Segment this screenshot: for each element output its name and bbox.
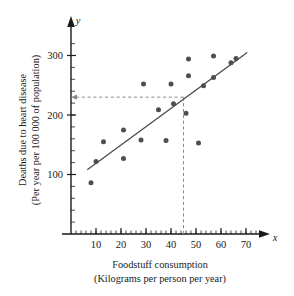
data-point [211, 75, 216, 80]
tick-labels-group: 10203040506070100200300 [47, 50, 251, 250]
line-of-best-fit [87, 53, 247, 170]
x-axis-tick-label: 70 [241, 239, 252, 250]
data-point [234, 56, 239, 61]
data-point [139, 137, 144, 142]
x-axis-arrowhead [259, 230, 270, 237]
y-axis-arrowhead [67, 16, 75, 27]
y-axis-variable-label: y [75, 15, 81, 26]
data-point [89, 180, 94, 185]
prediction-guide-group [71, 94, 184, 234]
chart-canvas: 10203040506070100200300 y x Foodstuff co… [0, 0, 294, 296]
y-axis-tick-label: 100 [47, 169, 63, 180]
x-axis-tick-label: 40 [166, 239, 177, 250]
data-point [201, 83, 206, 88]
scatter-plot-figure: 10203040506070100200300 y x Foodstuff co… [0, 0, 294, 296]
data-point [156, 107, 161, 112]
data-point [121, 127, 126, 132]
x-axis-variable-label: x [272, 232, 278, 243]
data-point [171, 101, 176, 106]
data-point [184, 111, 189, 116]
guide-arrowhead-icon [71, 94, 77, 99]
data-point [196, 140, 201, 145]
data-point [229, 60, 234, 65]
y-axis-subtitle: (Per year per 100 000 of population) [30, 55, 42, 205]
data-point [94, 159, 99, 164]
x-axis-tick-label: 60 [216, 239, 227, 250]
data-point [186, 73, 191, 78]
x-axis-tick-label: 50 [191, 239, 202, 250]
ticks-group [67, 44, 256, 234]
x-axis-tick-label: 20 [116, 239, 127, 250]
y-axis-title: Deaths due to heart disease [17, 74, 28, 187]
x-axis-title: Foodstuff consumption [112, 259, 208, 270]
x-axis-subtitle: (Kilograms per person per year) [94, 273, 226, 285]
data-point [141, 82, 146, 87]
data-point [211, 54, 216, 59]
data-point [164, 138, 169, 143]
axes-group [62, 16, 270, 238]
data-point [186, 57, 191, 62]
data-point [169, 82, 174, 87]
y-axis-tick-label: 200 [47, 110, 63, 121]
x-axis-tick-label: 10 [91, 239, 102, 250]
data-point [121, 156, 126, 161]
x-axis-tick-label: 30 [141, 239, 152, 250]
data-point [101, 139, 106, 144]
y-axis-tick-label: 300 [47, 50, 63, 61]
data-points-group [89, 54, 239, 186]
